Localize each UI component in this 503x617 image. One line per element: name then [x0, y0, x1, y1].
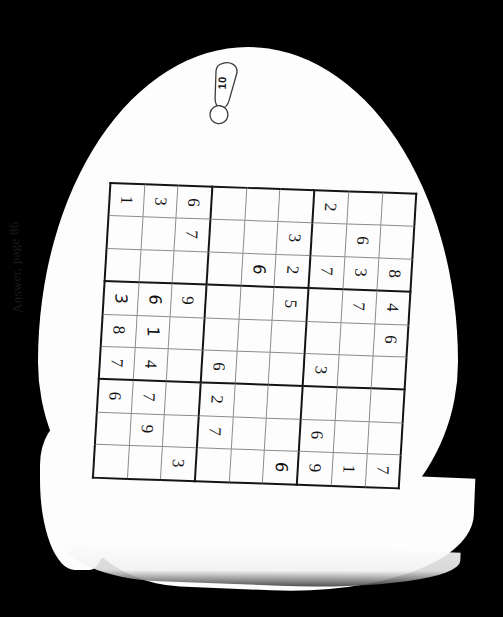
- sudoku-cell-r2-c8[interactable]: 6: [345, 224, 381, 258]
- sudoku-cell-r9-c7[interactable]: 9: [297, 451, 333, 485]
- sudoku-cell-value: 2: [322, 202, 339, 211]
- sudoku-cell-r9-c5[interactable]: [229, 449, 265, 483]
- sudoku-cell-r5-c5[interactable]: [237, 319, 273, 353]
- sudoku-cell-value: 3: [152, 196, 169, 205]
- sudoku-cell-r8-c7[interactable]: 6: [299, 419, 335, 453]
- sudoku-cell-r4-c6[interactable]: 5: [272, 287, 308, 321]
- sudoku-cell-r4-c9[interactable]: 4: [374, 291, 410, 325]
- sudoku-cell-r9-c8[interactable]: 1: [331, 453, 367, 487]
- sudoku-cell-r6-c9[interactable]: [371, 356, 407, 390]
- sudoku-cell-r4-c1[interactable]: 3: [103, 281, 139, 315]
- sudoku-cell-r3-c5[interactable]: 6: [241, 253, 277, 287]
- sudoku-cell-r2-c7[interactable]: [311, 223, 347, 257]
- sudoku-cell-value: 9: [138, 425, 155, 434]
- sudoku-cell-r4-c4[interactable]: [205, 285, 241, 319]
- sudoku-cell-r1-c5[interactable]: [245, 188, 281, 222]
- sudoku-cell-r9-c6[interactable]: 6: [263, 450, 299, 484]
- sudoku-cell-r1-c6[interactable]: [278, 189, 314, 223]
- sudoku-cell-value: 7: [108, 358, 125, 367]
- sudoku-cell-r1-c1[interactable]: 1: [108, 183, 144, 217]
- sudoku-cell-r2-c3[interactable]: 7: [174, 218, 210, 252]
- sudoku-cell-r9-c9[interactable]: 7: [365, 454, 401, 488]
- sudoku-cell-r6-c8[interactable]: [337, 355, 373, 389]
- sudoku-cell-r5-c7[interactable]: [305, 321, 341, 355]
- sudoku-cell-r4-c3[interactable]: 9: [170, 283, 206, 317]
- sudoku-cell-r8-c5[interactable]: [231, 417, 267, 451]
- sudoku-cell-r6-c7[interactable]: 3: [303, 353, 339, 387]
- sudoku-cell-r9-c3[interactable]: 3: [161, 447, 197, 481]
- sudoku-cell-r7-c2[interactable]: 7: [131, 380, 167, 414]
- sudoku-cell-value: 6: [354, 236, 371, 245]
- sudoku-cell-r8-c9[interactable]: [367, 421, 403, 455]
- sudoku-cell-r4-c5[interactable]: [239, 286, 275, 320]
- sudoku-cell-r1-c2[interactable]: 3: [143, 184, 179, 218]
- sudoku-cell-r2-c2[interactable]: [141, 217, 177, 251]
- answer-page-reference: Answer, page 86: [4, 173, 26, 314]
- sudoku-cell-r1-c8[interactable]: [347, 191, 383, 225]
- sudoku-cell-r3-c8[interactable]: 3: [343, 257, 379, 291]
- sudoku-cell-r6-c3[interactable]: [167, 349, 203, 383]
- sudoku-cell-r3-c1[interactable]: [105, 248, 141, 282]
- sudoku-cell-r7-c8[interactable]: [335, 387, 371, 421]
- sudoku-cell-r6-c2[interactable]: 4: [133, 347, 169, 381]
- sudoku-cell-value: 6: [308, 431, 325, 440]
- sudoku-cell-r8-c3[interactable]: [163, 414, 199, 448]
- sudoku-cell-r9-c2[interactable]: [127, 446, 163, 480]
- sudoku-cell-value: 2: [208, 395, 225, 404]
- sudoku-grid-container[interactable]: 136273662738369574816746367297636917: [93, 182, 405, 475]
- sudoku-cell-r5-c1[interactable]: 8: [101, 314, 137, 348]
- sudoku-cell-value: 3: [312, 365, 329, 374]
- sudoku-cell-r4-c8[interactable]: 7: [341, 289, 377, 323]
- sudoku-cell-r3-c2[interactable]: [139, 249, 175, 283]
- sudoku-cell-value: 3: [352, 268, 369, 277]
- sudoku-cell-r5-c2[interactable]: 1: [135, 315, 171, 349]
- sudoku-cell-value: 6: [272, 462, 289, 473]
- sudoku-cell-r7-c5[interactable]: [233, 384, 269, 418]
- sudoku-cell-r5-c9[interactable]: 6: [373, 323, 409, 357]
- sudoku-cell-r5-c8[interactable]: [339, 322, 375, 356]
- sudoku-cell-value: 7: [318, 267, 335, 276]
- sudoku-cell-value: 5: [282, 299, 299, 308]
- sudoku-cell-value: 1: [144, 326, 161, 337]
- sudoku-cell-value: 4: [384, 303, 401, 312]
- sudoku-cell-r8-c8[interactable]: [333, 420, 369, 454]
- sudoku-cell-r3-c9[interactable]: 8: [376, 258, 412, 292]
- sudoku-cell-r8-c1[interactable]: [95, 412, 131, 446]
- sudoku-cell-r1-c3[interactable]: 6: [176, 185, 212, 219]
- sudoku-cell-r1-c4[interactable]: [210, 187, 246, 221]
- sudoku-cell-r7-c7[interactable]: [301, 386, 337, 420]
- sudoku-cell-r3-c6[interactable]: 2: [274, 254, 310, 288]
- sudoku-cell-r7-c4[interactable]: 2: [199, 383, 235, 417]
- sudoku-cell-r3-c3[interactable]: [172, 251, 208, 285]
- sudoku-cell-r4-c2[interactable]: 6: [137, 282, 173, 316]
- sudoku-cell-r6-c5[interactable]: [235, 351, 271, 385]
- sudoku-grid[interactable]: 136273662738369574816746367297636917: [92, 182, 418, 489]
- sudoku-cell-r2-c6[interactable]: 3: [276, 222, 312, 256]
- sudoku-cell-r7-c1[interactable]: 6: [97, 379, 133, 413]
- sudoku-cell-r8-c4[interactable]: 7: [197, 416, 233, 450]
- sudoku-cell-r1-c9[interactable]: [380, 193, 416, 227]
- sudoku-cell-r8-c6[interactable]: [265, 418, 301, 452]
- sudoku-cell-r5-c3[interactable]: [169, 316, 205, 350]
- sudoku-cell-r2-c1[interactable]: [107, 216, 143, 250]
- sudoku-cell-r6-c1[interactable]: 7: [99, 346, 135, 380]
- photo-stage: 10 Answer, page 86 136273662738369574816…: [0, 0, 503, 617]
- sudoku-cell-r2-c5[interactable]: [243, 221, 279, 255]
- sudoku-cell-r9-c1[interactable]: [93, 444, 129, 478]
- sudoku-cell-r2-c4[interactable]: [209, 219, 245, 253]
- sudoku-cell-r2-c9[interactable]: [378, 225, 414, 259]
- sudoku-cell-r6-c6[interactable]: [269, 352, 305, 386]
- sudoku-cell-r5-c6[interactable]: [271, 320, 307, 354]
- sudoku-cell-r6-c4[interactable]: 6: [201, 350, 237, 384]
- sudoku-cell-r5-c4[interactable]: [203, 318, 239, 352]
- sudoku-cell-r7-c6[interactable]: [267, 385, 303, 419]
- sudoku-cell-r8-c2[interactable]: 9: [129, 413, 165, 447]
- sudoku-cell-value: 9: [307, 463, 324, 472]
- sudoku-cell-r3-c4[interactable]: [207, 252, 243, 286]
- sudoku-cell-r1-c7[interactable]: 2: [312, 190, 348, 224]
- sudoku-cell-r3-c7[interactable]: 7: [309, 255, 345, 289]
- sudoku-cell-r7-c9[interactable]: [369, 389, 405, 423]
- sudoku-cell-r7-c3[interactable]: [165, 382, 201, 416]
- sudoku-cell-r9-c4[interactable]: [195, 448, 231, 482]
- sudoku-cell-r4-c7[interactable]: [307, 288, 343, 322]
